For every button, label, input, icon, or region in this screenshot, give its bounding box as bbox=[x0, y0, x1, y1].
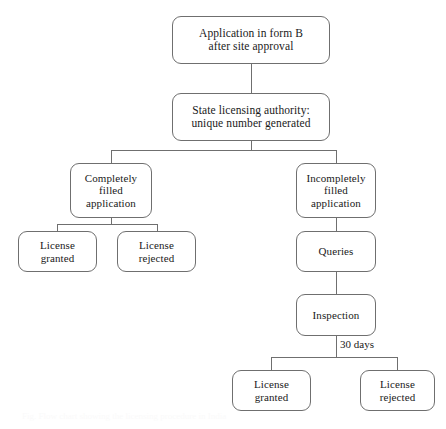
node-queries: Queries bbox=[296, 231, 376, 272]
node-inspection-label: Inspection bbox=[310, 309, 363, 322]
node-license-granted-left-label: License granted bbox=[37, 239, 78, 264]
node-license-rejected-left-label: License rejected bbox=[136, 239, 178, 264]
node-license-rejected-left: License rejected bbox=[117, 231, 196, 272]
edge-label-30-days: 30 days bbox=[340, 338, 374, 350]
node-license-rejected-bottom: License rejected bbox=[360, 370, 435, 411]
node-license-rejected-bottom-label: License rejected bbox=[377, 378, 419, 403]
node-license-granted-bottom: License granted bbox=[232, 370, 311, 411]
flowchart-canvas: Application in form B after site approva… bbox=[0, 0, 446, 429]
node-state-licensing-authority: State licensing authority: unique number… bbox=[172, 93, 330, 141]
node-queries-label: Queries bbox=[316, 245, 357, 258]
node-completely-filled-application: Completely filled application bbox=[70, 163, 152, 218]
node-license-granted-bottom-label: License granted bbox=[251, 378, 292, 403]
node-inspection: Inspection bbox=[296, 294, 376, 336]
node-application-label: Application in form B after site approva… bbox=[196, 27, 306, 53]
node-license-granted-left: License granted bbox=[18, 231, 97, 272]
flowchart-connectors bbox=[0, 0, 446, 429]
figure-caption: Fig. Flow chart showing the licensing pr… bbox=[22, 411, 226, 421]
node-incompletely-filled-application: Incompletely filled application bbox=[296, 163, 376, 218]
node-incompletely-filled-application-label: Incompletely filled application bbox=[303, 172, 368, 210]
node-application: Application in form B after site approva… bbox=[172, 16, 330, 64]
node-state-licensing-authority-label: State licensing authority: unique number… bbox=[188, 104, 313, 130]
node-completely-filled-application-label: Completely filled application bbox=[82, 172, 140, 210]
